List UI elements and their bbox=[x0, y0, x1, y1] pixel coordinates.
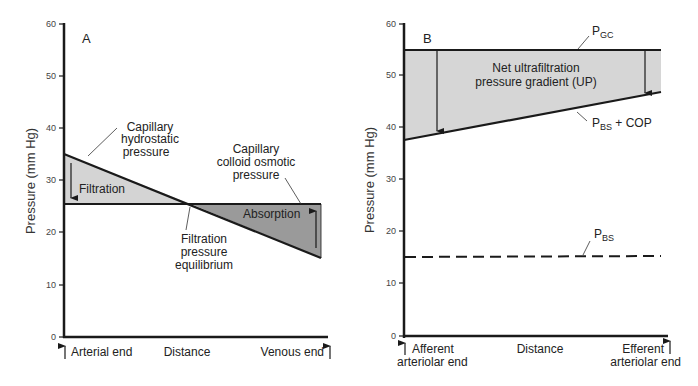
panel-letter-b: B bbox=[423, 31, 432, 46]
pbs-label: PBS bbox=[594, 227, 614, 243]
x-label-efferent-1: Efferent bbox=[622, 342, 664, 356]
colloid-label-2: colloid osmotic bbox=[217, 155, 296, 169]
x-label-efferent-2: arteriolar end bbox=[610, 355, 681, 369]
pbs-cop-label: PBS + COP bbox=[592, 116, 652, 132]
x-label-afferent-1: Afferent bbox=[412, 342, 454, 356]
equilibrium-label-3: equilibrium bbox=[175, 258, 233, 272]
tick-a-30: 30 bbox=[46, 175, 56, 185]
colloid-label-1: Capillary bbox=[233, 142, 280, 156]
x-label-arterial-end: Arterial end bbox=[71, 345, 132, 359]
tick-b-50: 50 bbox=[386, 70, 396, 80]
tick-b-30: 30 bbox=[386, 174, 396, 184]
y-axis-title-b: Pressure (mm Hg) bbox=[362, 127, 377, 233]
up-label-1: Net ultrafiltration bbox=[492, 61, 579, 75]
tick-a-20: 20 bbox=[46, 227, 56, 237]
pbs-line bbox=[405, 256, 661, 257]
panel-b: 0 10 20 30 40 50 60 Pressure (mm Hg) B P… bbox=[362, 19, 681, 369]
x-label-distance-b: Distance bbox=[517, 342, 564, 356]
colloid-label-3: pressure bbox=[233, 168, 280, 182]
pgc-label: PGC bbox=[592, 24, 614, 40]
panel-letter-a: A bbox=[82, 31, 91, 46]
equilibrium-label-2: pressure bbox=[181, 245, 228, 259]
hydrostatic-label-2: hydrostatic bbox=[121, 132, 179, 146]
tick-a-40: 40 bbox=[46, 123, 56, 133]
absorption-label: Absorption bbox=[243, 207, 300, 221]
tick-b-10: 10 bbox=[386, 278, 396, 288]
tick-a-10: 10 bbox=[46, 280, 56, 290]
x-label-distance-a: Distance bbox=[164, 345, 211, 359]
filtration-label: Filtration bbox=[79, 182, 125, 196]
hydrostatic-label-3: pressure bbox=[123, 145, 170, 159]
tick-b-20: 20 bbox=[386, 226, 396, 236]
x-label-afferent-2: arteriolar end bbox=[397, 355, 468, 369]
figure: 0 10 20 30 40 50 60 Pressure (mm Hg) A C… bbox=[0, 0, 698, 386]
tick-b-60: 60 bbox=[386, 19, 396, 29]
y-axis-title-a: Pressure (mm Hg) bbox=[23, 128, 38, 234]
equilibrium-label-1: Filtration bbox=[181, 232, 227, 246]
tick-a-50: 50 bbox=[46, 71, 56, 81]
x-label-venous-end: Venous end bbox=[261, 345, 324, 359]
up-label-2: pressure gradient (UP) bbox=[475, 75, 596, 89]
tick-b-0: 0 bbox=[391, 331, 396, 341]
tick-b-40: 40 bbox=[386, 122, 396, 132]
panel-a: 0 10 20 30 40 50 60 Pressure (mm Hg) A C… bbox=[23, 19, 330, 359]
tick-a-0: 0 bbox=[51, 332, 56, 342]
tick-a-60: 60 bbox=[46, 19, 56, 29]
